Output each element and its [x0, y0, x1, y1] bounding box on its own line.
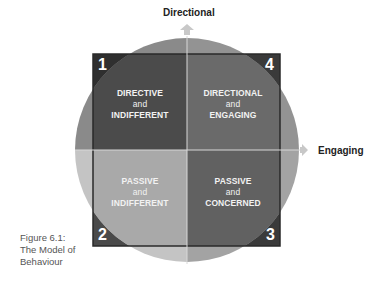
quadrant-4-line2: and: [186, 99, 280, 110]
quadrant-4-line3: ENGAGING: [186, 110, 280, 121]
quadrant-3-label: PASSIVE and CONCERNED: [186, 176, 280, 209]
caption-line2: The Model of: [20, 244, 75, 256]
quadrant-4-number: 4: [265, 56, 274, 74]
directional-axis-label: Directional: [163, 7, 215, 18]
quadrant-1-line3: INDIFFERENT: [93, 110, 187, 121]
quadrant-1-label: DIRECTIVE and INDIFFERENT: [93, 88, 187, 121]
quadrant-1-number: 1: [98, 56, 107, 74]
caption-line3: Behaviour: [20, 256, 75, 268]
quadrant-2-label: PASSIVE and INDIFFERENT: [93, 176, 187, 209]
quadrant-3-line1: PASSIVE: [186, 176, 280, 187]
quadrant-2-number: 2: [98, 226, 107, 244]
quadrant-4-line1: DIRECTIONAL: [186, 88, 280, 99]
quadrant-4-label: DIRECTIONAL and ENGAGING: [186, 88, 280, 121]
quadrant-1-line1: DIRECTIVE: [93, 88, 187, 99]
engaging-axis-label: Engaging: [318, 145, 364, 156]
quadrant-2-line2: and: [93, 187, 187, 198]
quadrant-3-number: 3: [266, 226, 275, 244]
quadrant-3-line3: CONCERNED: [186, 198, 280, 209]
up-arrow-icon: [180, 24, 194, 35]
caption-line1: Figure 6.1:: [20, 232, 75, 244]
quadrant-2-line3: INDIFFERENT: [93, 198, 187, 209]
model-of-behaviour-diagram: Directional Engaging 1 4 2 3 DIRECTIVE a…: [0, 0, 379, 289]
figure-caption: Figure 6.1: The Model of Behaviour: [20, 232, 75, 268]
quadrant-2-line1: PASSIVE: [93, 176, 187, 187]
quadrant-3-line2: and: [186, 187, 280, 198]
quadrant-1-line2: and: [93, 99, 187, 110]
right-arrow-icon: [300, 144, 308, 156]
